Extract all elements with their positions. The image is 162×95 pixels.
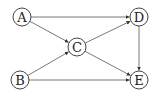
nodes-layer: ABCDE [11, 8, 148, 89]
directed-graph: ABCDE [0, 0, 162, 95]
node-label: C [72, 40, 82, 55]
node-label: D [134, 10, 144, 25]
edge-a-to-c [30, 21, 69, 42]
node-b: B [11, 71, 29, 89]
node-label: E [134, 73, 144, 88]
edge-b-to-c [28, 52, 69, 76]
node-e: E [130, 71, 148, 89]
node-c: C [68, 38, 86, 56]
node-label: B [15, 73, 25, 88]
node-a: A [13, 8, 31, 26]
edge-c-to-e [85, 51, 131, 75]
edge-c-to-d [85, 21, 130, 43]
node-label: A [16, 10, 27, 25]
node-d: D [130, 8, 148, 26]
